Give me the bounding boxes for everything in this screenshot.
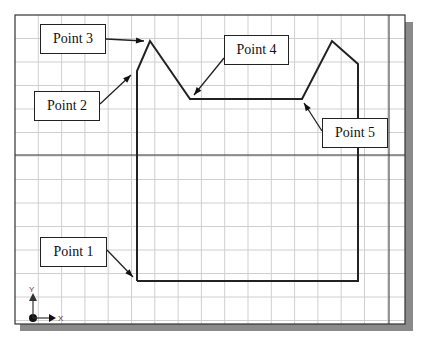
frame-shadow-bottom bbox=[20, 324, 413, 331]
label-point-2: Point 2 bbox=[34, 91, 100, 121]
frame-shadow-right bbox=[405, 22, 413, 331]
drawing-area bbox=[15, 15, 405, 324]
drawing-canvas: Y X Point 1 Point 2 Point 3 Point 4 Poin… bbox=[0, 0, 446, 347]
label-point-4: Point 4 bbox=[224, 35, 289, 65]
x-axis-label: X bbox=[58, 314, 64, 323]
label-point-1: Point 1 bbox=[40, 237, 107, 267]
label-point-5: Point 5 bbox=[322, 118, 388, 148]
y-axis-label: Y bbox=[29, 285, 35, 294]
label-point-3: Point 3 bbox=[40, 24, 106, 54]
